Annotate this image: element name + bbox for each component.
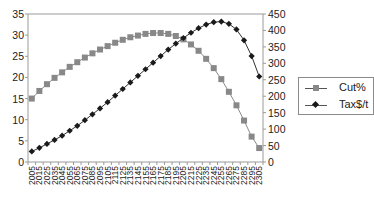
data-point [89,50,95,56]
left-y-tick-label: 25 [12,50,24,62]
left-y-tick-label: 0 [18,156,24,168]
right-y-tick-label: 400 [268,24,286,36]
legend: Cut% Tax$/t [298,77,374,115]
right-y-axis: 050100150200250300350400450 [263,8,286,168]
data-point [195,25,201,31]
right-y-tick-label: 200 [268,90,286,102]
data-point [165,31,171,37]
data-point [188,30,194,36]
data-point [44,141,50,147]
data-point [256,145,262,151]
square-marker-icon [313,85,319,91]
legend-label-cut: Cut% [339,81,366,93]
legend-item-cut: Cut% [299,80,373,96]
left-y-tick-label: 35 [12,8,24,20]
right-y-tick-label: 350 [268,41,286,53]
left-y-tick-label: 30 [12,29,24,41]
data-point [203,56,209,62]
data-point [112,40,118,46]
data-point [218,76,224,82]
right-y-tick-label: 250 [268,74,286,86]
data-point [150,30,156,36]
left-y-tick-label: 10 [12,114,24,126]
data-point [226,89,232,95]
x-tick-label: 2305 [254,166,264,185]
data-point [241,37,247,43]
right-y-tick-label: 0 [268,156,274,168]
data-point [158,30,164,36]
data-point [67,64,73,70]
data-point [97,47,103,53]
data-point [218,18,224,24]
data-point [29,148,35,154]
data-point [241,118,247,124]
left-y-tick-label: 20 [12,71,24,83]
data-point [211,19,217,25]
data-point [52,75,58,81]
data-point [120,37,126,43]
data-point [44,81,50,87]
data-point [256,73,262,79]
diamond-marker-icon [312,101,319,108]
data-point [211,65,217,71]
data-point [188,41,194,47]
data-point [29,96,35,102]
series-tax [29,18,263,154]
data-point [233,102,239,108]
data-point [173,33,179,39]
series-line [32,33,259,148]
data-point [203,21,209,27]
data-point [74,59,80,65]
data-point [249,53,255,59]
data-point [36,145,42,151]
data-point [135,33,141,39]
left-y-tick-label: 15 [12,93,24,105]
data-point [143,31,149,37]
right-y-tick-label: 450 [268,8,286,20]
series-cut [29,30,262,151]
right-y-tick-label: 300 [268,57,286,69]
right-y-tick-label: 100 [268,123,286,135]
x-axis: 2005201520252035204520552065207520852095… [27,162,264,185]
data-point [249,134,255,140]
data-point [196,48,202,54]
left-y-axis: 05101520253035 [12,8,28,168]
data-point [82,55,88,61]
left-y-tick-label: 5 [18,135,24,147]
data-point [105,43,111,49]
right-y-tick-label: 150 [268,107,286,119]
series-layer [29,18,263,154]
legend-item-tax: Tax$/t [299,97,373,113]
data-point [67,128,73,134]
data-point [127,34,133,40]
data-point [59,69,65,75]
data-point [36,88,42,94]
data-point [51,137,57,143]
series-line [32,22,259,152]
data-point [59,133,65,139]
legend-label-tax: Tax$/t [339,98,368,110]
right-y-tick-label: 50 [268,140,280,152]
